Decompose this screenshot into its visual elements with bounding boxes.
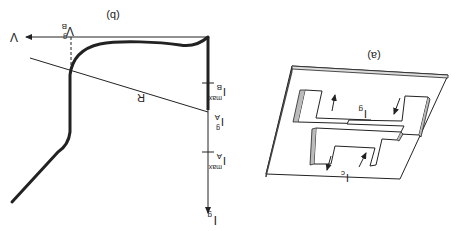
panel-b-label: (b) [106, 10, 119, 22]
svg-text:I: I [223, 86, 226, 98]
svg-text:max: max [208, 95, 222, 102]
panel-b: (b) V I g I B max I A g I A max [10, 10, 226, 227]
panel-a-label: (a) [367, 50, 380, 62]
svg-text:I: I [223, 155, 226, 167]
load-line-label: R [137, 92, 145, 104]
svg-text:I: I [221, 116, 224, 128]
v-axis-label: V [10, 30, 18, 44]
svg-text:g: g [63, 33, 67, 41]
label-ia-g: I A g [214, 113, 224, 132]
svg-text:I: I [364, 108, 367, 120]
svg-text:c: c [341, 169, 345, 178]
ig-axis-label: I g [208, 211, 217, 227]
label-ia-max: I A max [208, 152, 226, 171]
panel-a: (a) I g I c [266, 50, 448, 184]
svg-text:g: g [216, 124, 220, 132]
svg-text:B: B [217, 83, 222, 92]
svg-text:I: I [214, 213, 217, 227]
svg-text:g: g [359, 105, 363, 114]
load-line-r [30, 58, 208, 112]
svg-text:A: A [214, 113, 220, 122]
svg-text:max: max [208, 164, 222, 171]
svg-text:A: A [216, 152, 222, 161]
svg-text:I: I [346, 172, 349, 184]
svg-text:g: g [208, 211, 212, 220]
label-ib-max: I B max [208, 83, 226, 102]
label-vbg: V B g [62, 22, 74, 41]
svg-text:B: B [62, 22, 67, 31]
figure: (b) V I g I B max I A g I A max [0, 0, 462, 231]
